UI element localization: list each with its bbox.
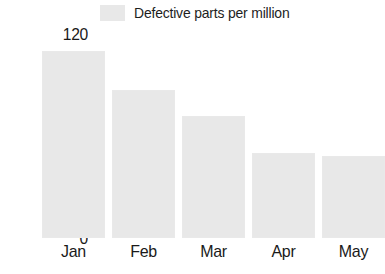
x-axis-tick-may: May (324, 243, 383, 261)
bar-slot-apr (252, 153, 315, 238)
x-axis-tick-apr: Apr (254, 243, 313, 261)
bar-slot-mar (182, 116, 245, 238)
x-axis-tick-jan: Jan (44, 243, 103, 261)
bar-group (42, 34, 377, 238)
bar-apr (252, 153, 315, 238)
bar-slot-jan (42, 51, 105, 238)
bar-slot-feb (112, 90, 175, 238)
x-axis-tick-mar: Mar (184, 243, 243, 261)
bar-slot-may (322, 156, 385, 238)
bar-mar (182, 116, 245, 238)
bar-feb (112, 90, 175, 238)
bar-jan (42, 51, 105, 238)
x-axis-tick-feb: Feb (114, 243, 173, 261)
bar-may (322, 156, 385, 238)
